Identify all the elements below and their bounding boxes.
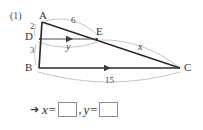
point-e [96,38,98,40]
measure-label-ad: 2 [30,22,35,31]
measure-label-bc: 15 [105,76,114,85]
x-answer-box[interactable] [58,102,77,117]
arrowhead-bc [104,65,111,71]
measure-label-de: y [66,42,70,52]
vertex-label-d: D [25,31,33,42]
measure-label-ec: x [138,42,142,52]
answer-row: ➜ x= , y= [30,98,119,120]
vertex-label-b: B [25,62,32,73]
vertex-label-c: C [184,62,191,73]
y-equals-label: y= [84,103,99,116]
answer-arrow-icon: ➜ [30,104,39,115]
vertex-label-a: A [39,10,47,21]
measure-label-db: 3 [30,46,35,55]
segment-ac [42,22,180,68]
y-answer-box[interactable] [99,102,118,117]
x-equals-label: x= [42,103,57,116]
measure-label-ae: 6 [71,16,76,25]
answer-separator: , [79,103,82,115]
vertex-label-e: E [96,26,103,37]
geometry-problem-page: (1) A D B E C 2 3 6 x y 15 ➜ x= , y [0,0,203,130]
segment-ab [39,22,42,68]
point-d [39,38,41,40]
